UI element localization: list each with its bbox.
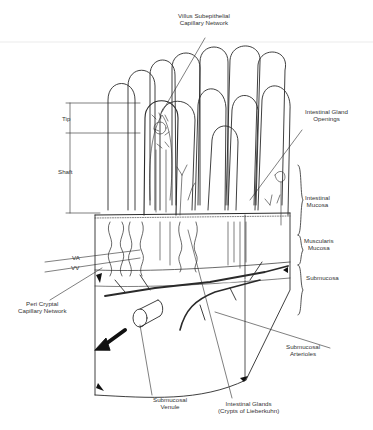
label-peri-cryptal-capillary-network: Peri Cryptal Capillary Network (18, 300, 66, 314)
label-va: VA (72, 254, 80, 261)
label-intestinal-gland-openings: Intestinal Gland Openings (305, 108, 348, 122)
label-muscularis-mucosa: Muscularis Mucosa (304, 237, 334, 251)
label-tip: Tip (62, 115, 70, 122)
label-intestinal-glands: Intestinal Glands (Crypts of Lieberkuhn) (218, 400, 279, 414)
label-intestinal-mucosa: Intestinal Mucosa (305, 194, 330, 208)
label-villus-capillary-network: Villus Subepithelial Capillary Network (178, 12, 230, 26)
intestinal-villus-diagram (0, 0, 373, 430)
label-submucosa: Submucosa (306, 274, 339, 281)
label-vv: VV (71, 264, 79, 271)
label-submucosal-venule: Submucosal Venule (153, 396, 187, 410)
label-shaft: Shaft (58, 168, 72, 175)
label-submucosal-arterioles: Submucosal Arterioles (286, 343, 320, 357)
